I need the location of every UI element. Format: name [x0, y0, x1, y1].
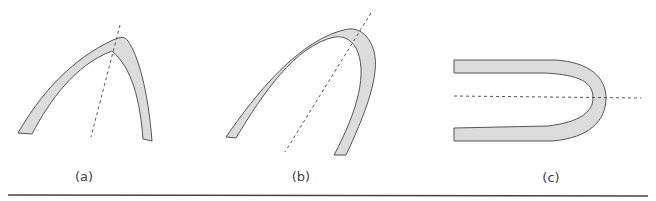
panel-a — [18, 25, 152, 141]
panel-label-a: (a) — [75, 169, 93, 184]
panel-label-c: (c) — [542, 170, 559, 185]
bottom-rule — [8, 195, 648, 196]
panel-c — [454, 60, 641, 141]
axis-line-c — [454, 96, 641, 98]
arch-band-b — [226, 29, 375, 155]
panel-b — [226, 13, 375, 155]
panel-label-b: (b) — [292, 169, 310, 184]
axis-line-b — [285, 13, 371, 152]
u-band-c — [454, 60, 606, 141]
arch-band-a — [18, 37, 152, 141]
